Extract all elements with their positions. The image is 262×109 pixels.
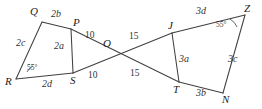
vertex-label-R: R <box>5 76 12 87</box>
segment-label-2a: 2a <box>54 41 64 51</box>
vertex-label-S: S <box>70 75 76 86</box>
edge-j-z <box>172 15 245 33</box>
angle-label-r: 55° <box>27 64 38 72</box>
length-label-15-upper: 15 <box>129 32 139 42</box>
segment-label-3d: 3d <box>196 6 206 16</box>
segment-label-2d: 2d <box>42 79 52 89</box>
length-label-15-lower: 15 <box>130 69 140 79</box>
vertex-label-Z: Z <box>244 3 250 14</box>
segment-label-2b: 2b <box>51 9 61 19</box>
vertex-label-O: O <box>103 38 111 49</box>
segment-label-3b: 3b <box>196 88 206 98</box>
length-label-10-lower: 10 <box>88 71 98 81</box>
vertex-label-Q: Q <box>30 6 38 17</box>
segment-label-3c: 3c <box>228 54 237 64</box>
geometry-figure: Q P R S O J T Z N 2b 2c 2a 2d 3a 3b 3c 3… <box>0 0 262 109</box>
vertex-label-T: T <box>173 84 179 95</box>
edge-q-p <box>42 22 71 29</box>
edge-j-t <box>172 33 179 82</box>
angle-label-z: 55° <box>216 21 227 29</box>
edge-p-s <box>71 29 73 73</box>
length-label-10-upper: 10 <box>85 31 95 41</box>
vertex-label-P: P <box>73 17 80 28</box>
vertex-label-N: N <box>222 94 229 105</box>
segment-label-2c: 2c <box>16 38 25 48</box>
vertex-label-J: J <box>168 20 173 31</box>
angle-arc-z <box>230 19 237 27</box>
segment-label-3a: 3a <box>179 54 189 64</box>
